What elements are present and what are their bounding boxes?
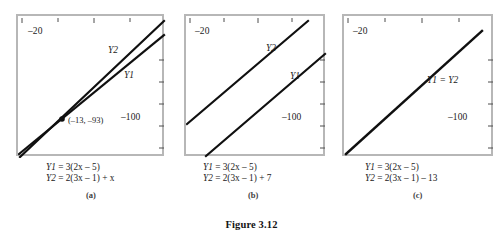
subcaption-a: (a) (86, 190, 96, 200)
equation-y2-var-c: Y2 (365, 173, 375, 183)
series-label-y1-y2-c: Y1 = Y2 (427, 75, 458, 85)
curve-y1-y2-c (346, 31, 482, 154)
series-label-y2-b: Y2 (266, 43, 276, 53)
top-ticks-b (190, 18, 292, 23)
plot-area-a (18, 16, 166, 158)
equation-y1-var-c: Y1 (365, 162, 375, 172)
equation-y2-c: Y2 = 2(3x – 1) – 13 (365, 173, 437, 184)
series-label-y2-a: Y2 (108, 45, 118, 55)
plot-frame-a: –20 –100 Y2 Y1 (–13, –93) (16, 14, 164, 156)
right-ticks-a (159, 60, 164, 148)
equation-y1-c: Y1 = 3(2x – 5) (365, 162, 437, 173)
plot-frame-c: –20 –100 Y1 = Y2 (342, 14, 493, 156)
equations-b: Y1 = 3(2x – 5) Y2 = 2(3x – 1) + 7 (203, 162, 271, 185)
equation-y1-var-b: Y1 (203, 162, 213, 172)
equation-y1-rest-a: = 3(2x – 5) (58, 162, 100, 172)
subcaption-c: (c) (413, 190, 422, 200)
intersection-point-label-a: (–13, –93) (68, 115, 103, 125)
axis-label-neg20-a: –20 (28, 26, 43, 36)
right-ticks-c (488, 60, 493, 148)
equation-y2-var-b: Y2 (203, 173, 213, 183)
axis-label-neg100-a: –100 (121, 112, 140, 122)
equations-a: Y1 = 3(2x – 5) Y2 = 2(3x – 1) + x (46, 162, 114, 185)
figure-caption: Figure 3.12 (0, 219, 503, 230)
curve-y1-b (206, 54, 325, 156)
equation-y2-var-a: Y2 (46, 173, 56, 183)
axis-label-neg100-c: –100 (448, 112, 467, 122)
axis-label-neg20-c: –20 (353, 26, 368, 36)
plot-frame-b: –20 –100 Y2 Y1 (184, 14, 325, 156)
equation-y1-var-a: Y1 (46, 162, 56, 172)
plot-area-b (186, 16, 327, 158)
intersection-point-marker-a (59, 116, 65, 122)
subcaption-b: (b) (248, 190, 258, 200)
series-label-y1-b: Y1 (290, 71, 300, 81)
equation-y1-rest-b: = 3(2x – 5) (215, 162, 257, 172)
figure-3-12: –20 –100 Y2 Y1 (–13, –93) Y1 = 3(2x – 5)… (0, 0, 503, 243)
series-label-y1-a: Y1 (124, 70, 134, 80)
top-ticks-a (22, 18, 130, 23)
equation-y2-a: Y2 = 2(3x – 1) + x (46, 173, 114, 184)
equation-y1-b: Y1 = 3(2x – 5) (203, 162, 271, 173)
axis-label-neg20-b: –20 (195, 26, 210, 36)
plot-area-c (344, 16, 495, 158)
equations-c: Y1 = 3(2x – 5) Y2 = 2(3x – 1) – 13 (365, 162, 437, 185)
right-ticks-b (320, 60, 325, 148)
axis-label-neg100-b: –100 (282, 112, 301, 122)
equation-y2-rest-b: = 2(3x – 1) + 7 (215, 173, 271, 183)
equation-y2-rest-a: = 2(3x – 1) + x (58, 173, 114, 183)
equation-y2-rest-c: = 2(3x – 1) – 13 (377, 173, 437, 183)
top-ticks-c (348, 18, 459, 23)
curve-y1-a (19, 35, 164, 154)
equation-y2-b: Y2 = 2(3x – 1) + 7 (203, 173, 271, 184)
equation-y1-rest-c: = 3(2x – 5) (377, 162, 419, 172)
equation-y1-a: Y1 = 3(2x – 5) (46, 162, 114, 173)
